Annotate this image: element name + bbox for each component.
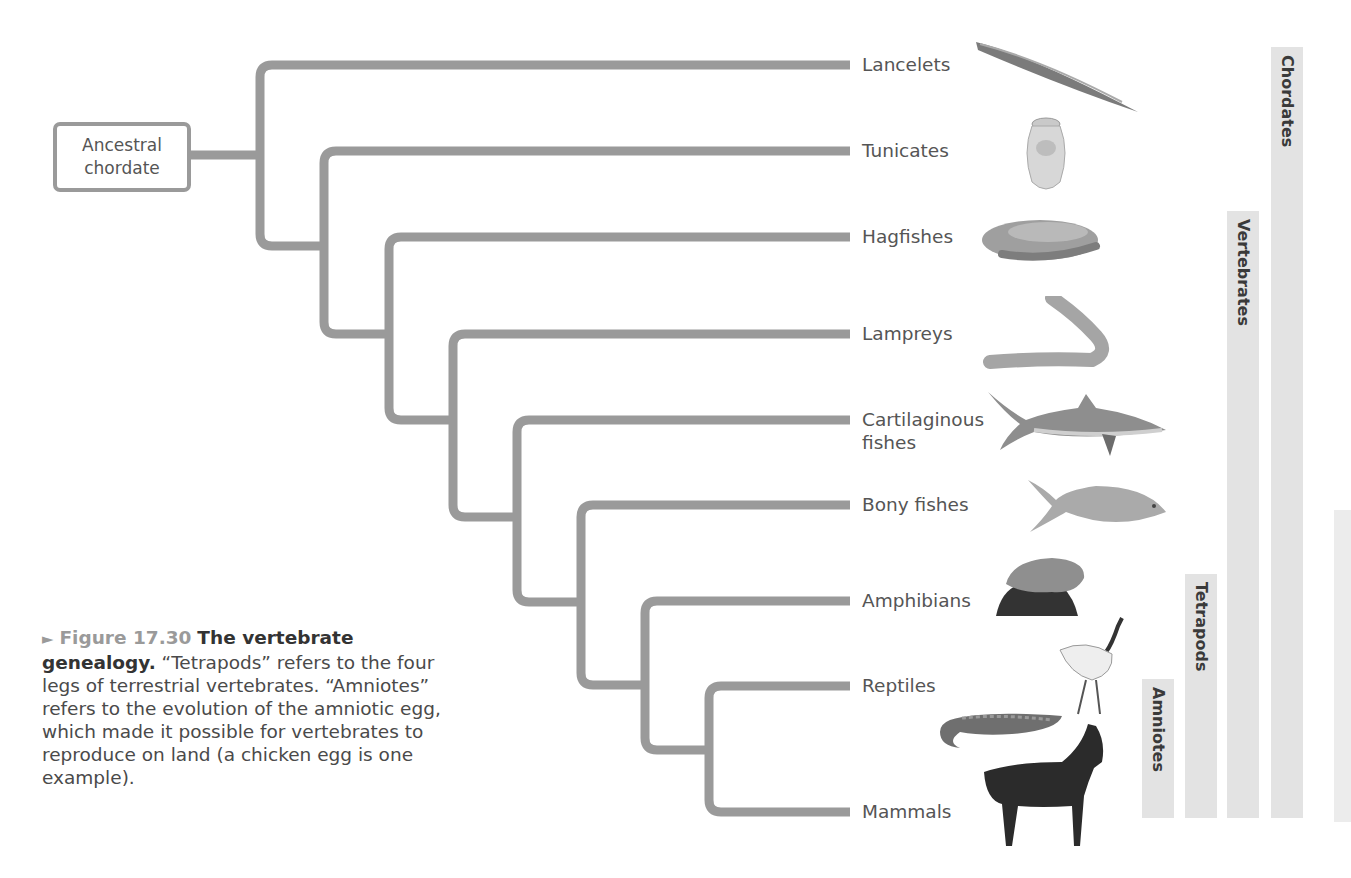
taxon-label-bony-fishes: Bony fishes [862, 493, 969, 516]
vertebrate-genealogy-figure: Ancestral chordate Lancelets Tunicates H… [0, 0, 1351, 878]
taxon-label-mammals: Mammals [862, 800, 951, 823]
clade-bar-tetrapods: Tetrapods [1185, 574, 1217, 818]
lancelet-icon [972, 36, 1142, 116]
caption-arrow-icon: ► [42, 630, 54, 648]
clade-bar-vertebrates: Vertebrates [1227, 211, 1259, 818]
figure-number: Figure 17.30 [59, 627, 191, 648]
branch-cartilaginous [517, 420, 850, 602]
clade-label-amniotes: Amniotes [1149, 687, 1168, 772]
ancestral-chordate-node: Ancestral chordate [53, 122, 191, 192]
branch-bony-fishes [581, 505, 850, 685]
figure-caption: ► Figure 17.30 The vertebrate genealogy.… [42, 626, 442, 789]
bony-fish-icon [1026, 478, 1172, 534]
taxon-label-cartilaginous-fishes: Cartilaginous fishes [862, 408, 984, 454]
taxon-label-lampreys: Lampreys [862, 322, 953, 345]
clade-label-chordates: Chordates [1278, 55, 1297, 147]
shark-icon [986, 390, 1170, 458]
taxon-label-line2: fishes [862, 431, 984, 454]
lamprey-icon [982, 296, 1114, 378]
hagfish-icon [978, 210, 1110, 268]
clade-bar-chordates: Chordates [1271, 47, 1303, 818]
horse-icon [972, 722, 1112, 854]
root-label-line2: chordate [82, 157, 162, 180]
clade-label-vertebrates: Vertebrates [1234, 219, 1253, 326]
branch-amphibians [645, 601, 850, 750]
taxon-label-line1: Cartilaginous [862, 408, 984, 431]
root-label-line1: Ancestral [82, 134, 162, 157]
branch-hagfishes [389, 237, 850, 420]
clade-bar-partial-offscreen [1334, 510, 1351, 822]
branch-tunicates [324, 151, 850, 334]
taxon-label-amphibians: Amphibians [862, 589, 971, 612]
taxon-label-tunicates: Tunicates [862, 139, 949, 162]
taxon-label-hagfishes: Hagfishes [862, 225, 953, 248]
clade-bar-amniotes: Amniotes [1142, 679, 1174, 818]
clade-label-tetrapods: Tetrapods [1192, 582, 1211, 671]
taxon-label-lancelets: Lancelets [862, 53, 950, 76]
tunicate-icon [1018, 112, 1074, 198]
taxon-label-reptiles: Reptiles [862, 674, 936, 697]
branch-reptiles-mammals [709, 686, 850, 812]
frog-icon [992, 554, 1090, 618]
